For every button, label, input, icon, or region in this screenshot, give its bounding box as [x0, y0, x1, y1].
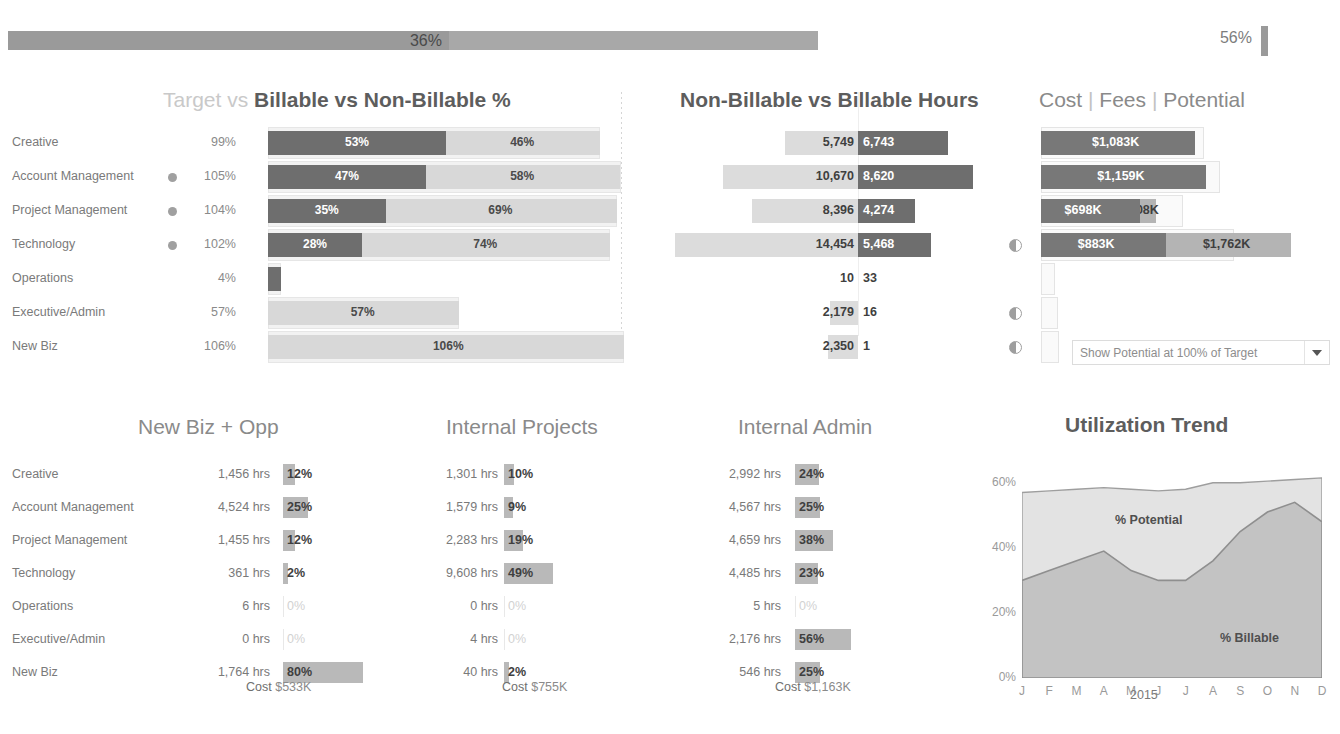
overall-utilization-bar[interactable]: 36%	[8, 31, 818, 50]
panelA-row-label: Project Management	[12, 533, 127, 547]
panelA-row[interactable]: New Biz1,764 hrs80%	[0, 657, 400, 690]
chevron-down-icon	[1312, 350, 1322, 356]
secondary-kpi-bar	[1261, 26, 1268, 56]
chart1-nonbillable-label: 57%	[351, 305, 375, 319]
panelB-cost: Cost $755K	[502, 680, 567, 694]
panelB-row[interactable]: 1,301 hrs10%	[400, 459, 685, 492]
chart2-row[interactable]: 2,3501	[660, 330, 1005, 364]
panelC-row[interactable]: 2,992 hrs24%	[685, 459, 980, 492]
panelA-row-hours: 1,455 hrs	[180, 533, 270, 547]
chart3-potential-outline	[1041, 263, 1055, 295]
chart1-title-prefix: Target vs	[163, 88, 254, 111]
panelB-row[interactable]: 1,579 hrs9%	[400, 492, 685, 525]
chart1-billable-label: 28%	[303, 237, 327, 251]
panelA-row-label: Operations	[12, 599, 73, 613]
panelA-row[interactable]: Technology361 hrs2%	[0, 558, 400, 591]
panelC-row-baseline	[795, 596, 796, 617]
chart1-row-bars	[268, 262, 644, 296]
panelB-cost-key: Cost	[502, 680, 528, 694]
potential-dropdown-arrow-button[interactable]	[1304, 341, 1329, 364]
panelB-row[interactable]: 0 hrs0%	[400, 591, 685, 624]
panelA-row-label: Creative	[12, 467, 59, 481]
panelC-row-hours: 4,659 hrs	[685, 533, 781, 547]
chart1-row-label: Executive/Admin	[12, 305, 105, 319]
panelA-row-pct: 12%	[287, 467, 312, 481]
status-dot-icon	[168, 173, 177, 182]
trend-y-tick: 40%	[980, 540, 1016, 554]
chart3-title-fees: Fees	[1099, 88, 1146, 111]
chart1-row-marker	[168, 207, 177, 216]
panelC-row[interactable]: 4,567 hrs25%	[685, 492, 980, 525]
panelC-row-pct: 24%	[799, 467, 824, 481]
panelC-row[interactable]: 4,659 hrs38%	[685, 525, 980, 558]
chart2-nonbillable-value: 2,179	[762, 305, 854, 319]
chart2-row[interactable]: 14,4545,468	[660, 228, 1005, 262]
chart3-cost-label: $698K	[1065, 203, 1102, 217]
half-circle-icon	[1009, 307, 1022, 320]
panelC-title: Internal Admin	[738, 415, 872, 439]
chart1-nonbillable-label: 46%	[510, 135, 534, 149]
half-circle-icon	[1009, 341, 1022, 354]
panelB-title: Internal Projects	[446, 415, 598, 439]
chart3-row[interactable]: $808K$698K	[1005, 194, 1340, 228]
panelB-row-hours: 0 hrs	[408, 599, 498, 613]
chart2-row[interactable]: 10,6708,620	[660, 160, 1005, 194]
chart1-billable-bar[interactable]	[268, 267, 281, 291]
status-dot-icon	[168, 207, 177, 216]
chart3-row[interactable]	[1005, 296, 1340, 330]
panelB-row-baseline	[504, 629, 505, 650]
panelB-row-hours: 40 hrs	[408, 665, 498, 679]
chart3-row[interactable]: $795K$1,159K	[1005, 160, 1340, 194]
chart1-row-marker	[168, 173, 177, 182]
chart1-row-target-pct: 105%	[196, 169, 236, 183]
chart3-row[interactable]: $1,762K$883K	[1005, 228, 1340, 262]
chart1-nonbillable-label: 69%	[488, 203, 512, 217]
panelA-row[interactable]: Creative1,456 hrs12%	[0, 459, 400, 492]
panelA-row-label: Account Management	[12, 500, 134, 514]
chart1-row-bars: 57%	[268, 296, 644, 330]
panelB-cost-value: $755K	[531, 680, 567, 694]
chart2-row[interactable]: 8,3964,274	[660, 194, 1005, 228]
panel-new-biz-opp: New Biz + Opp Creative1,456 hrs12%Accoun…	[0, 415, 400, 705]
panelC-row-hours: 4,567 hrs	[685, 500, 781, 514]
panelA-row[interactable]: Project Management1,455 hrs12%	[0, 525, 400, 558]
panelB-row[interactable]: 4 hrs0%	[400, 624, 685, 657]
panelB-row[interactable]: 2,283 hrs19%	[400, 525, 685, 558]
panelB-row[interactable]: 9,608 hrs49%	[400, 558, 685, 591]
trend-x-tick: A	[1206, 684, 1220, 698]
panelA-title: New Biz + Opp	[138, 415, 279, 439]
panelA-row[interactable]: Operations6 hrs0%	[0, 591, 400, 624]
chart3-row[interactable]: $1,083K	[1005, 126, 1340, 160]
chart1-row-bars: 46%53%	[268, 126, 644, 160]
chart-cost-fees-potential: Cost | Fees | Potential $1,083K$795K$1,1…	[1005, 88, 1340, 373]
panelA-row-hours: 4,524 hrs	[180, 500, 270, 514]
panelA-row-pct: 0%	[287, 632, 305, 646]
panelB-row-hours: 2,283 hrs	[408, 533, 498, 547]
chart-target-vs-billable: Target vs Billable vs Non-Billable % 100…	[0, 88, 660, 373]
secondary-kpi[interactable]: 56%	[1200, 26, 1280, 56]
chart3-fees-label: $1,762K	[1203, 237, 1250, 251]
panelA-row-hours: 361 hrs	[180, 566, 270, 580]
trend-title: Utilization Trend	[1065, 413, 1228, 437]
chart3-title-cost: Cost	[1039, 88, 1082, 111]
panelB-row-baseline	[504, 596, 505, 617]
chart-utilization-trend: Utilization Trend Billable vs Potential …	[980, 413, 1340, 713]
panelA-row[interactable]: Executive/Admin0 hrs0%	[0, 624, 400, 657]
trend-label-potential: % Potential	[1115, 513, 1182, 527]
chart3-row[interactable]	[1005, 262, 1340, 296]
potential-mode-dropdown[interactable]: Show Potential at 100% of Target	[1072, 340, 1330, 365]
trend-y-tick: 0%	[980, 670, 1016, 684]
panelC-row[interactable]: 4,485 hrs23%	[685, 558, 980, 591]
panelA-cost: Cost $533K	[246, 680, 311, 694]
panelC-row[interactable]: 5 hrs0%	[685, 591, 980, 624]
chart2-row[interactable]: 5,7496,743	[660, 126, 1005, 160]
chart2-row[interactable]: 1033	[660, 262, 1005, 296]
chart1-row-target-pct: 104%	[196, 203, 236, 217]
chart2-row[interactable]: 2,17916	[660, 296, 1005, 330]
chart2-nonbillable-value: 14,454	[762, 237, 854, 251]
chart1-row-target-pct: 106%	[196, 339, 236, 353]
panelC-row[interactable]: 2,176 hrs56%	[685, 624, 980, 657]
panelA-row[interactable]: Account Management4,524 hrs25%	[0, 492, 400, 525]
chart3-potential-outline	[1041, 331, 1059, 363]
overall-bar-value: 36%	[8, 31, 442, 50]
